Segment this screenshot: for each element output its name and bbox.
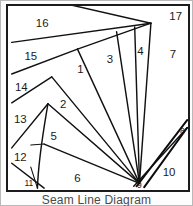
piece-label-1: 1: [77, 63, 83, 75]
piece-label-8: 8: [180, 126, 185, 136]
diagram-frame: 1234567891011121314151617: [6, 4, 190, 192]
piece-label-4: 4: [137, 45, 144, 57]
piece-label-3: 3: [107, 53, 113, 65]
piece-label-14: 14: [15, 81, 28, 93]
seam-fan-5: [44, 144, 139, 183]
seam-16-15: [12, 23, 151, 42]
piece-label-10: 10: [163, 166, 176, 178]
piece-label-13: 13: [14, 113, 27, 125]
seam-fan-2: [78, 49, 140, 183]
seam-10-right: [144, 128, 187, 187]
figure-caption: Seam Line Diagram: [0, 193, 193, 206]
piece-label-16: 16: [36, 17, 49, 29]
seam-line-group: [12, 5, 187, 188]
piece-label-15: 15: [24, 50, 37, 62]
piece-label-5: 5: [50, 130, 56, 142]
piece-label-9: 9: [137, 180, 142, 190]
seam-15-14: [12, 49, 78, 74]
seam-fan-4: [48, 104, 140, 184]
seam-top-16: [71, 5, 151, 23]
piece-label-2: 2: [60, 98, 66, 110]
piece-label-17: 17: [169, 10, 182, 22]
piece-label-11: 11: [24, 178, 33, 188]
piece-label-12: 12: [14, 150, 27, 162]
seam-line-diagram: 1234567891011121314151617: [6, 4, 190, 192]
piece-label-7: 7: [170, 48, 176, 60]
seam-line-figure: 1234567891011121314151617 Seam Line Diag…: [0, 0, 193, 206]
piece-label-6: 6: [74, 172, 80, 184]
seam-left-curve: [37, 104, 47, 188]
